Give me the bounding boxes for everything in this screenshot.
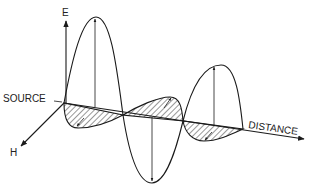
h-axis-label: H [10,147,17,158]
source-label: SOURCE [3,93,46,104]
source-pointer [54,101,62,102]
h-axis [21,103,64,146]
e-axis-label: E [62,7,69,18]
h-wave-lobe-2 [123,97,183,121]
h-wave-lobe-3 [183,121,243,141]
em-wave-diagram: E H SOURCE DISTANCE [0,0,313,190]
h-wave-lobe-1 [64,103,123,128]
magnetic-field-wave [64,97,243,141]
